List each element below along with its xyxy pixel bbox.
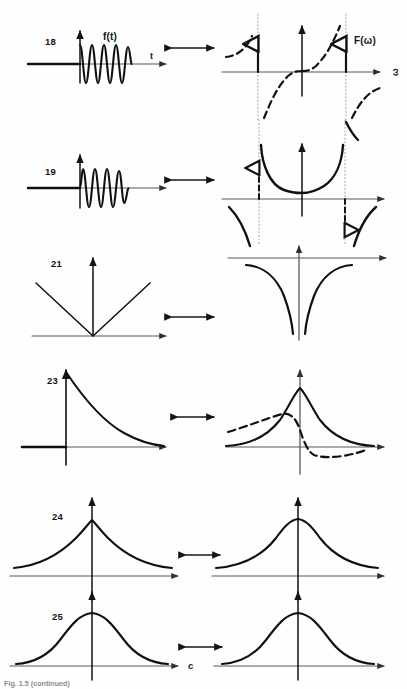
row-number-21: 21 [51,258,62,269]
row-number-23: 23 [47,375,58,386]
row-19-right-panel [222,120,384,246]
bottom-mark-c: c [188,660,193,671]
time-function-label: f(t) [103,31,117,42]
row-18-right-panel [222,14,380,120]
row-number-19: 19 [45,166,56,177]
row-24-left-panel [10,498,178,600]
row-25-right-panel [214,592,384,680]
figure-caption: Fig. 1.5 (continued) [4,679,70,688]
row-21-left-panel [32,258,166,336]
row-19-left-panel [28,155,166,208]
row-25-left-panel [10,592,178,680]
figure-plate [0,0,407,689]
row-23-left-panel [22,370,166,465]
freq-axis-label: ω [390,68,400,76]
row-number-25: 25 [52,611,63,622]
row-number-24: 24 [52,511,63,522]
row-23-right-panel [226,370,384,474]
freq-function-label: F(ω) [354,35,376,46]
row-24-right-panel [212,498,384,600]
row-21-right-panel [228,246,386,340]
time-axis-label: t [150,51,153,61]
figure-sheet: 18 f(t) t F(ω) ω 19 21 23 24 25 c Fig. 1… [0,0,407,689]
row-number-18: 18 [45,36,56,47]
